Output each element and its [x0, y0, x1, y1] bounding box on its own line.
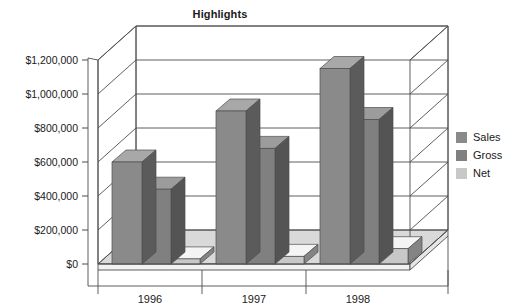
- x-axis-category-label: 1997: [242, 293, 266, 305]
- y-axis-tick-label: $800,000: [34, 122, 78, 134]
- bar-chart-plot: $0$200,000$400,000$600,000$800,000$1,000…: [0, 0, 529, 305]
- y-axis-tick-label: $600,000: [34, 156, 78, 168]
- y-axis-tick-label: $400,000: [34, 190, 78, 202]
- chart-bars: [112, 57, 422, 265]
- legend-item-net: Net: [456, 165, 526, 182]
- legend-swatch-net: [456, 168, 467, 179]
- x-axis-category-label: 1996: [138, 293, 162, 305]
- x-axis-category-label: 1998: [346, 293, 370, 305]
- chart-container: Highlights $0$200,000$400,000$600,000$80…: [0, 0, 529, 305]
- bar-sales-1998: [320, 57, 364, 265]
- legend-label-net: Net: [473, 168, 490, 179]
- chart-legend: Sales Gross Net: [456, 129, 526, 183]
- bar-sales-1996: [112, 150, 156, 264]
- legend-swatch-gross: [456, 150, 467, 161]
- y-axis-tick-label: $0: [66, 258, 78, 270]
- bar-sales-1997: [216, 99, 260, 264]
- legend-item-sales: Sales: [456, 129, 526, 146]
- legend-item-gross: Gross: [456, 147, 526, 164]
- legend-label-sales: Sales: [473, 132, 501, 143]
- y-axis-tick-label: $1,000,000: [25, 88, 78, 100]
- legend-label-gross: Gross: [473, 150, 502, 161]
- y-axis-tick-label: $200,000: [34, 224, 78, 236]
- y-axis: $0$200,000$400,000$600,000$800,000$1,000…: [25, 54, 98, 286]
- y-axis-tick-label: $1,200,000: [25, 54, 78, 66]
- legend-swatch-sales: [456, 132, 467, 143]
